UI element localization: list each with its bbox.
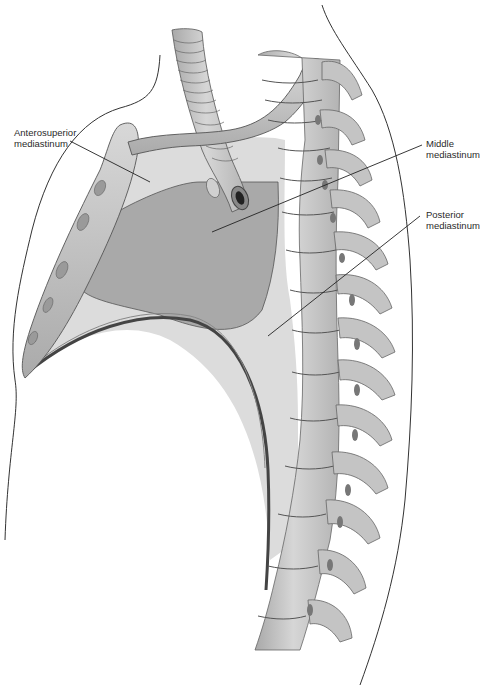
label-anterosuperior-mediastinum: Anterosuperior mediastinum [14, 127, 76, 149]
mediastinum-diagram: Anterosuperior mediastinum Middle medias… [0, 0, 487, 685]
first-rib [128, 59, 322, 155]
label-posterior-mediastinum: Posterior mediastinum [426, 209, 480, 231]
label-middle-mediastinum: Middle mediastinum [426, 138, 480, 160]
anatomy-illustration [0, 0, 487, 685]
